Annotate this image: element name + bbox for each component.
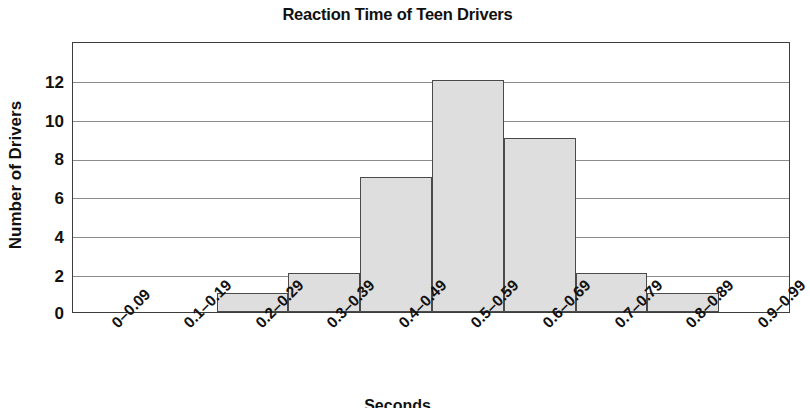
y-axis-title: Number of Drivers	[6, 75, 26, 275]
gridline	[73, 82, 789, 83]
bar	[432, 80, 504, 312]
chart-title: Reaction Time of Teen Drivers	[0, 5, 795, 24]
x-axis-tick-labels: 0–0.09 0.1–0.19 0.2–0.29 0.3–0.39 0.4–0.…	[72, 313, 790, 408]
y-tick-label: 0	[12, 304, 64, 324]
gridline	[73, 160, 789, 161]
gridline	[73, 121, 789, 122]
plot-area	[72, 42, 790, 313]
x-axis-title: Seconds	[0, 398, 795, 408]
